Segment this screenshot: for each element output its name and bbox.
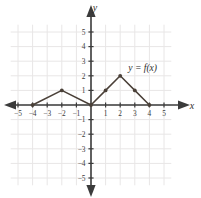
x-tick-label: 5 [162, 109, 166, 118]
x-tick-labels: −5−4−3−2−112345 [14, 109, 166, 118]
x-tick-label: −5 [14, 109, 22, 118]
y-tick-label: −5 [78, 174, 86, 183]
y-tick-label: 1 [82, 86, 86, 95]
graph-figure: −5−4−3−2−112345 54321−1−2−3−4−5 x y y = … [0, 0, 201, 198]
data-point-marker [31, 103, 35, 107]
y-tick-label: 5 [82, 28, 86, 37]
data-point-marker [60, 89, 64, 93]
data-point-marker [148, 103, 152, 107]
y-tick-label: −4 [78, 159, 86, 168]
x-axis-label: x [189, 100, 195, 111]
x-tick-label: −3 [43, 109, 51, 118]
x-tick-label: −2 [58, 109, 66, 118]
x-tick-label: −4 [29, 109, 37, 118]
y-tick-label: −1 [78, 115, 86, 124]
coordinate-plane-svg: −5−4−3−2−112345 54321−1−2−3−4−5 x y y = … [0, 0, 201, 198]
x-tick-label: 1 [104, 109, 108, 118]
data-point-marker [104, 89, 108, 93]
data-point-marker [118, 74, 122, 78]
data-point-marker [133, 89, 137, 93]
y-tick-label: 4 [82, 42, 86, 51]
y-tick-label: −2 [78, 130, 86, 139]
y-tick-label: 3 [82, 57, 86, 66]
function-annotation-label: y = f(x) [127, 62, 157, 74]
x-tick-label: 2 [118, 109, 122, 118]
x-axis-arrow-right [178, 100, 190, 109]
x-tick-label: 4 [148, 109, 152, 118]
x-tick-label: 3 [133, 109, 137, 118]
y-axis-label: y [92, 2, 98, 13]
y-tick-label: 2 [82, 72, 86, 81]
data-point-marker [89, 103, 93, 107]
axes [4, 5, 190, 197]
y-axis-arrow-down [86, 185, 95, 197]
y-tick-label: −3 [78, 145, 86, 154]
